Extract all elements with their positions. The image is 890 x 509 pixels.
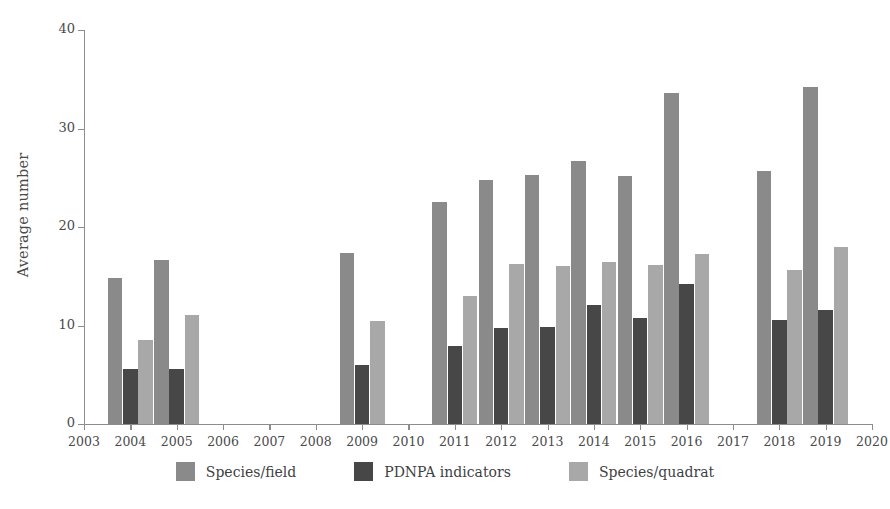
bar bbox=[340, 253, 355, 424]
bar bbox=[818, 310, 833, 424]
bar bbox=[123, 369, 138, 424]
x-tick-mark bbox=[594, 424, 595, 430]
y-tick-label: 20 bbox=[58, 218, 75, 233]
x-tick-mark bbox=[130, 424, 131, 430]
y-axis-title-text: Average number bbox=[15, 153, 31, 278]
bar bbox=[679, 284, 694, 424]
x-tick-label: 2020 bbox=[856, 434, 888, 449]
x-tick-label: 2013 bbox=[532, 434, 564, 449]
bar bbox=[556, 266, 571, 424]
x-tick-label: 2018 bbox=[763, 434, 795, 449]
bar bbox=[602, 262, 617, 424]
bar bbox=[138, 340, 153, 424]
x-tick-mark bbox=[826, 424, 827, 430]
x-tick-label: 2004 bbox=[114, 434, 146, 449]
bar bbox=[494, 328, 509, 424]
x-tick-label: 2014 bbox=[578, 434, 610, 449]
bar bbox=[509, 264, 524, 424]
x-tick-label: 2010 bbox=[393, 434, 425, 449]
bar bbox=[648, 265, 663, 424]
x-tick-mark bbox=[223, 424, 224, 430]
bar bbox=[355, 365, 370, 424]
legend-item[interactable]: Species/quadrat bbox=[569, 462, 714, 481]
x-tick-mark bbox=[872, 424, 873, 430]
x-tick-mark bbox=[269, 424, 270, 430]
y-tick-label: 10 bbox=[58, 317, 75, 332]
x-tick-mark bbox=[362, 424, 363, 430]
bar bbox=[571, 161, 586, 424]
bar bbox=[479, 180, 494, 424]
x-tick-mark bbox=[779, 424, 780, 430]
bar bbox=[185, 315, 200, 424]
bar bbox=[525, 175, 540, 424]
y-tick-label: 30 bbox=[58, 120, 75, 135]
bar bbox=[169, 369, 184, 424]
x-tick-mark bbox=[84, 424, 85, 430]
legend-swatch-icon bbox=[354, 462, 373, 481]
bar bbox=[108, 278, 123, 424]
bar-chart: Average number 010203040 200320042005200… bbox=[0, 0, 890, 509]
bar bbox=[757, 171, 772, 424]
x-tick-mark bbox=[640, 424, 641, 430]
bar bbox=[618, 176, 633, 424]
x-tick-mark bbox=[316, 424, 317, 430]
bar bbox=[834, 247, 849, 424]
x-tick-label: 2007 bbox=[254, 434, 286, 449]
legend-swatch-icon bbox=[176, 462, 195, 481]
bar bbox=[633, 318, 648, 424]
legend-label: PDNPA indicators bbox=[384, 464, 511, 480]
x-tick-mark bbox=[687, 424, 688, 430]
x-tick-mark bbox=[177, 424, 178, 430]
x-tick-label: 2011 bbox=[439, 434, 471, 449]
bar bbox=[695, 254, 710, 424]
plot-area: 010203040 200320042005200620072008200920… bbox=[84, 30, 872, 424]
bar bbox=[463, 296, 478, 424]
bars-layer bbox=[84, 30, 872, 424]
x-tick-label: 2015 bbox=[624, 434, 656, 449]
y-tick-label: 40 bbox=[58, 21, 75, 36]
x-tick-label: 2005 bbox=[161, 434, 193, 449]
x-tick-label: 2017 bbox=[717, 434, 749, 449]
x-tick-mark bbox=[733, 424, 734, 430]
bar bbox=[540, 327, 555, 425]
legend-item[interactable]: Species/field bbox=[176, 462, 296, 481]
legend-swatch-icon bbox=[569, 462, 588, 481]
bar bbox=[587, 305, 602, 424]
bar bbox=[370, 321, 385, 424]
legend-label: Species/quadrat bbox=[599, 464, 714, 480]
bar bbox=[787, 270, 802, 424]
x-tick-label: 2003 bbox=[68, 434, 100, 449]
chart-legend: Species/fieldPDNPA indicatorsSpecies/qua… bbox=[0, 462, 890, 481]
bar bbox=[803, 87, 818, 424]
bar bbox=[448, 346, 463, 424]
legend-label: Species/field bbox=[206, 464, 296, 480]
x-axis-line bbox=[84, 424, 872, 425]
bar bbox=[154, 260, 169, 424]
x-tick-label: 2012 bbox=[485, 434, 517, 449]
x-tick-label: 2006 bbox=[207, 434, 239, 449]
x-tick-mark bbox=[455, 424, 456, 430]
bar bbox=[664, 93, 679, 424]
x-tick-mark bbox=[501, 424, 502, 430]
legend-item[interactable]: PDNPA indicators bbox=[354, 462, 511, 481]
y-tick-label: 0 bbox=[67, 415, 75, 430]
x-tick-label: 2016 bbox=[671, 434, 703, 449]
bar bbox=[432, 202, 447, 424]
x-tick-mark bbox=[408, 424, 409, 430]
x-tick-label: 2019 bbox=[810, 434, 842, 449]
bar bbox=[772, 320, 787, 424]
x-tick-mark bbox=[548, 424, 549, 430]
x-tick-label: 2008 bbox=[300, 434, 332, 449]
y-axis-title: Average number bbox=[0, 0, 46, 430]
x-tick-label: 2009 bbox=[346, 434, 378, 449]
